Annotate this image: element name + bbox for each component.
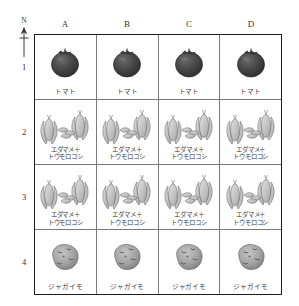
plot-cell-b1[interactable]: トマト [97, 35, 159, 99]
edamame-corn-icon [97, 100, 158, 146]
plot-row-2: エダマメ＋ トウモロコシ [35, 100, 281, 165]
plot-cell-c3[interactable]: エダマメ＋ トウモロコシ [159, 165, 221, 229]
crop-label: エダマメ＋ トウモロコシ [171, 146, 206, 162]
plot-cell-a1[interactable]: トマト [35, 35, 97, 99]
tomato-icon [97, 35, 158, 88]
compass-north-label: N [13, 16, 35, 25]
plot-cell-d4[interactable]: ジャガイモ [220, 230, 281, 294]
edamame-corn-icon [220, 100, 281, 146]
plot-cell-b3[interactable]: エダマメ＋ トウモロコシ [97, 165, 159, 229]
row-header-4: 4 [16, 230, 32, 295]
tomato-icon [35, 35, 96, 88]
column-header-row: A B C D [34, 18, 282, 32]
crop-label: ジャガイモ [233, 283, 268, 292]
tomato-icon [220, 35, 281, 88]
plot-cell-a3[interactable]: エダマメ＋ トウモロコシ [35, 165, 97, 229]
column-header-a: A [34, 18, 96, 32]
row-header-3: 3 [16, 165, 32, 230]
plot-row-3: エダマメ＋ トウモロコシ [35, 165, 281, 230]
crop-label: エダマメ＋ トウモロコシ [109, 211, 144, 227]
plot-cell-d1[interactable]: トマト [220, 35, 281, 99]
plot-row-4: ジャガイモ ジャガイモ [35, 230, 281, 294]
edamame-corn-icon [35, 100, 96, 146]
edamame-corn-icon [35, 165, 96, 211]
crop-label: エダマメ＋ トウモロコシ [48, 211, 83, 227]
potato-icon [159, 230, 220, 283]
row-header-1: 1 [16, 34, 32, 99]
edamame-corn-icon [220, 165, 281, 211]
plot-cell-c2[interactable]: エダマメ＋ トウモロコシ [159, 100, 221, 164]
column-header-d: D [220, 18, 282, 32]
potato-icon [35, 230, 96, 283]
edamame-corn-icon [97, 165, 158, 211]
tomato-icon [159, 35, 220, 88]
crop-label: トマト [179, 88, 200, 97]
edamame-corn-icon [159, 100, 220, 146]
plot-grid: トマト トマト [34, 34, 282, 295]
crop-label: エダマメ＋ トウモロコシ [233, 146, 268, 162]
crop-label: トマト [240, 88, 261, 97]
row-header-2: 2 [16, 99, 32, 164]
column-header-b: B [96, 18, 158, 32]
row-header-column: 1 2 3 4 [16, 34, 32, 295]
plot-cell-d2[interactable]: エダマメ＋ トウモロコシ [220, 100, 281, 164]
plot-cell-b4[interactable]: ジャガイモ [97, 230, 159, 294]
crop-label: エダマメ＋ トウモロコシ [233, 211, 268, 227]
plot-cell-b2[interactable]: エダマメ＋ トウモロコシ [97, 100, 159, 164]
crop-label: ジャガイモ [110, 283, 145, 292]
crop-label: エダマメ＋ トウモロコシ [109, 146, 144, 162]
crop-label: ジャガイモ [48, 283, 83, 292]
plot-row-1: トマト トマト [35, 35, 281, 100]
column-header-c: C [158, 18, 220, 32]
potato-icon [220, 230, 281, 283]
crop-label: ジャガイモ [172, 283, 207, 292]
crop-label: トマト [55, 88, 76, 97]
crop-label: エダマメ＋ トウモロコシ [48, 146, 83, 162]
plot-cell-c4[interactable]: ジャガイモ [159, 230, 221, 294]
edamame-corn-icon [159, 165, 220, 211]
plot-cell-c1[interactable]: トマト [159, 35, 221, 99]
plot-cell-d3[interactable]: エダマメ＋ トウモロコシ [220, 165, 281, 229]
field-plot-diagram: N A B C D 1 2 3 4 [0, 0, 299, 306]
potato-icon [97, 230, 158, 283]
plot-cell-a4[interactable]: ジャガイモ [35, 230, 97, 294]
crop-label: エダマメ＋ トウモロコシ [171, 211, 206, 227]
plot-cell-a2[interactable]: エダマメ＋ トウモロコシ [35, 100, 97, 164]
crop-label: トマト [117, 88, 138, 97]
